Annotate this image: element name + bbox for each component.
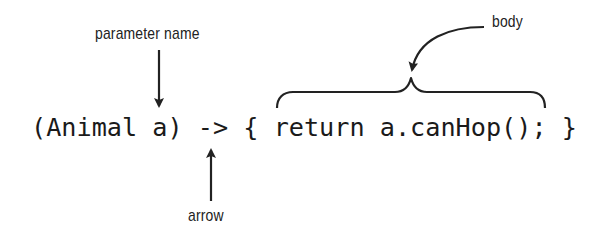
body-brace-icon — [277, 78, 545, 108]
annotation-graphics — [0, 0, 612, 234]
body-pointer-curved-arrow-icon — [412, 27, 484, 70]
